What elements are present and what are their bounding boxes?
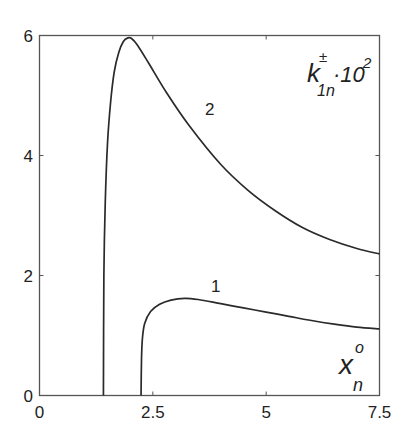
- xlabel-superscript: o: [355, 339, 364, 356]
- curve-label-1: 1: [211, 277, 220, 296]
- x-tick-label: 7.5: [368, 403, 392, 422]
- x-tick-label: 2.5: [141, 403, 165, 422]
- y-tick-label: 0: [24, 387, 33, 406]
- x-tick-label: 0: [35, 403, 44, 422]
- ylabel-suffix: ·10: [333, 62, 366, 87]
- xlabel-subscript: n: [353, 375, 363, 395]
- xlabel-base: x: [337, 349, 354, 380]
- data-curves: [103, 38, 379, 396]
- line-chart: 02.557.50246 2 1 k ± 1n ·10 2 x o n: [0, 0, 409, 444]
- curve-label-2: 2: [205, 100, 214, 119]
- curve-1: [141, 298, 379, 395]
- x-tick-label: 5: [261, 403, 270, 422]
- x-axis-title: x o n: [337, 339, 364, 395]
- y-tick-label: 2: [24, 267, 33, 286]
- ylabel-superscript: ±: [319, 48, 327, 65]
- y-axis-title: k ± 1n ·10 2: [307, 48, 372, 99]
- ylabel-suffix-superscript: 2: [362, 54, 372, 71]
- y-tick-label: 6: [24, 27, 33, 46]
- curve-2: [103, 38, 379, 396]
- y-tick-label: 4: [24, 147, 33, 166]
